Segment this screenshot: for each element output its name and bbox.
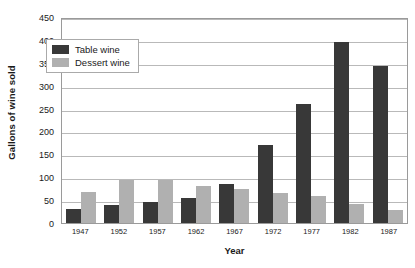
legend-entry: Dessert wine bbox=[52, 57, 130, 68]
bar bbox=[104, 205, 119, 223]
y-axis-tick-label: 250 bbox=[39, 105, 54, 115]
bar-group bbox=[215, 19, 253, 223]
y-axis-tick-label: 50 bbox=[44, 196, 54, 206]
bar bbox=[158, 180, 173, 223]
bar-group bbox=[369, 19, 407, 223]
y-axis-title: Gallons of wine sold bbox=[0, 0, 22, 224]
x-axis-title: Year bbox=[61, 245, 408, 256]
bar bbox=[373, 66, 388, 223]
bar bbox=[119, 180, 134, 223]
bar-group bbox=[292, 19, 330, 223]
bar bbox=[143, 202, 158, 223]
bar bbox=[234, 189, 249, 223]
y-axis-tick-label: 150 bbox=[39, 150, 54, 160]
bar-chart: Gallons of wine sold 0501001502002503003… bbox=[0, 0, 415, 268]
bar-group bbox=[139, 19, 177, 223]
y-axis-tick-label: 0 bbox=[49, 219, 54, 229]
x-axis-tick-label: 1977 bbox=[292, 227, 331, 241]
bar bbox=[388, 210, 403, 223]
y-axis-tick-label: 200 bbox=[39, 127, 54, 137]
y-axis-tick-label: 100 bbox=[39, 173, 54, 183]
bar bbox=[196, 186, 211, 223]
x-axis-tick-labels: 194719521957196219671972197719821987 bbox=[61, 227, 408, 241]
legend-label: Table wine bbox=[75, 44, 120, 55]
bar-group bbox=[330, 19, 368, 223]
x-axis-tick-label: 1962 bbox=[177, 227, 216, 241]
x-axis-tick-label: 1982 bbox=[331, 227, 370, 241]
bar bbox=[66, 209, 81, 223]
x-axis-tick-label: 1947 bbox=[61, 227, 100, 241]
bar-group bbox=[177, 19, 215, 223]
legend-swatch bbox=[52, 58, 69, 67]
bar bbox=[81, 192, 96, 223]
bar bbox=[311, 196, 326, 223]
legend-entry: Table wine bbox=[52, 44, 130, 55]
x-axis-tick-label: 1987 bbox=[370, 227, 409, 241]
x-axis-tick-label: 1967 bbox=[215, 227, 254, 241]
y-axis-tick-label: 300 bbox=[39, 82, 54, 92]
legend: Table wineDessert wine bbox=[46, 39, 139, 73]
bar bbox=[273, 193, 288, 223]
bar bbox=[334, 42, 349, 223]
x-axis-tick-label: 1952 bbox=[100, 227, 139, 241]
legend-swatch bbox=[52, 45, 69, 54]
y-axis-title-text: Gallons of wine sold bbox=[6, 65, 17, 159]
legend-label: Dessert wine bbox=[75, 57, 130, 68]
bar bbox=[258, 145, 273, 223]
bar bbox=[181, 198, 196, 223]
x-axis-tick-label: 1972 bbox=[254, 227, 293, 241]
bar bbox=[219, 184, 234, 223]
bar-group bbox=[254, 19, 292, 223]
x-axis-tick-label: 1957 bbox=[138, 227, 177, 241]
y-axis-tick-label: 450 bbox=[39, 13, 54, 23]
bar bbox=[349, 204, 364, 223]
bar bbox=[296, 104, 311, 223]
